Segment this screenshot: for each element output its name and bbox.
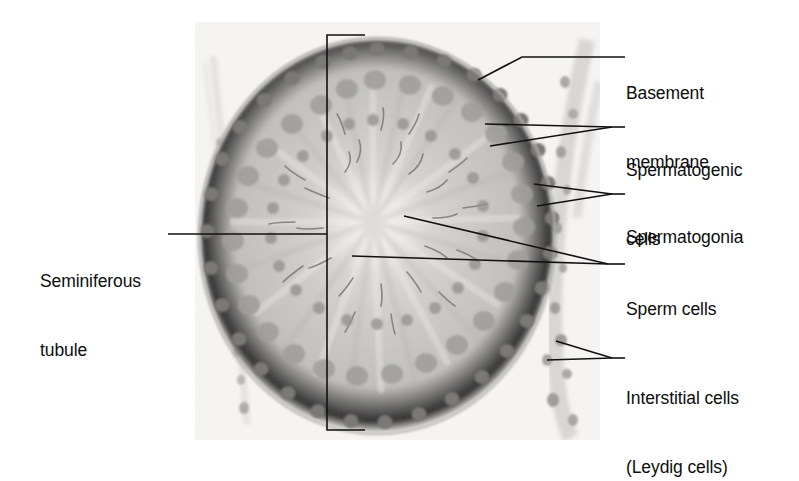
label-line: (Leydig cells) — [626, 456, 739, 479]
label-line: Interstitial cells — [626, 387, 739, 410]
label-line: Basement — [626, 82, 709, 105]
seminiferous-tubule-micrograph — [195, 22, 600, 440]
label-line: tubule — [40, 339, 141, 362]
micrograph-svg — [195, 22, 600, 440]
label-interstitial-cells: Interstitial cells (Leydig cells) — [626, 341, 739, 481]
label-line: Spermatogenic — [626, 159, 742, 182]
label-line: Spermatogonia — [626, 226, 743, 249]
label-line: Seminiferous — [40, 270, 141, 293]
label-line: Sperm cells — [626, 298, 716, 321]
label-seminiferous-tubule: Seminiferous tubule — [40, 224, 141, 408]
